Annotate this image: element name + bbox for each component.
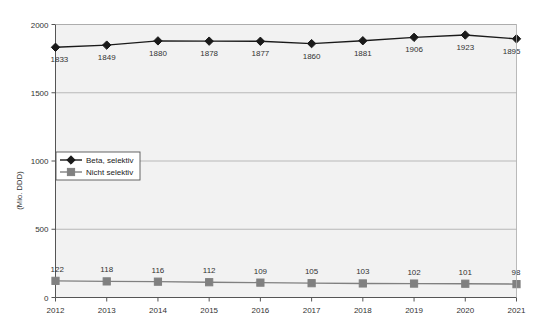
data-point-value: 1880 [149,49,167,58]
x-tick-label: 2020 [456,306,474,315]
data-point-marker [52,277,59,284]
data-point-marker [462,280,469,287]
data-point-marker [257,279,264,286]
data-point-value: 109 [254,267,268,276]
data-point-value: 105 [305,267,319,276]
data-point-value: 1923 [456,43,474,52]
data-point-value: 1877 [251,49,269,58]
data-point-value: 103 [356,267,370,276]
x-tick-label: 2015 [200,306,218,315]
data-point-value: 122 [51,265,65,274]
chart-legend[interactable]: Beta, selektivNicht selektiv [56,152,140,180]
data-point-value: 102 [407,268,421,277]
data-point-value: 1849 [98,53,116,62]
chart-container: (Mio. DDD) 0500100015002000 201220132014… [0,0,541,329]
legend-label: Nicht selektiv [86,168,133,177]
data-point-marker [206,279,213,286]
x-tick-label: 2019 [405,306,423,315]
data-point-marker [359,280,366,287]
y-tick-label: 500 [35,225,49,234]
data-point-value: 1860 [303,52,321,61]
data-point-marker [308,280,315,287]
data-point-value: 112 [203,266,216,275]
legend-item[interactable]: Nicht selektiv [60,168,133,177]
data-point-value: 1895 [503,47,521,56]
chart-canvas: 0500100015002000 20122013201420152016201… [0,0,541,329]
legend-label: Beta, selektiv [86,156,134,165]
x-tick-label: 2016 [251,306,269,315]
data-point-value: 101 [459,268,473,277]
data-point-value: 1906 [405,45,423,54]
x-tick-label: 2012 [47,306,65,315]
legend-item[interactable]: Beta, selektiv [60,156,134,165]
x-tick-label: 2018 [354,306,372,315]
y-tick-label: 1500 [31,89,49,98]
data-point-marker [154,278,161,285]
x-tick-label: 2013 [98,306,116,315]
y-tick-label: 1000 [31,157,49,166]
data-point-marker [410,280,417,287]
data-point-value: 116 [152,266,165,275]
x-axis: 2012201320142015201620172018201920202021 [47,298,526,315]
x-tick-label: 2021 [508,306,526,315]
x-tick-label: 2014 [149,306,167,315]
data-point-value: 1881 [354,49,372,58]
x-tick-label: 2017 [303,306,321,315]
y-tick-label: 0 [44,294,49,303]
data-point-value: 118 [100,265,113,274]
data-point-value: 1833 [51,55,69,64]
legend-marker [67,168,74,175]
data-point-marker [103,278,110,285]
data-point-value: 1878 [200,49,218,58]
y-tick-label: 2000 [31,21,49,30]
